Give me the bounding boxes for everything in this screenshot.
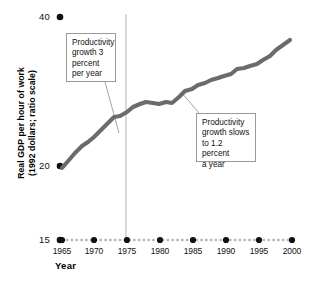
x-tick-label-1975: 1975 xyxy=(112,246,142,256)
x-tick-label-1985: 1985 xyxy=(178,246,208,256)
x-axis-title: Year xyxy=(55,260,76,271)
annotation-box-productivity-growth-3-percent: Productivity growth 3 percent per year xyxy=(66,33,116,82)
annotation-1-line-2: growth 3 xyxy=(72,48,111,58)
y-axis-tick-dots xyxy=(57,14,64,244)
y-axis-title: Real GDP per hour of work (1992 dollars;… xyxy=(16,48,38,198)
annotation-box-productivity-growth-slows: Productivity growth slows to 1.2 percent… xyxy=(196,113,256,162)
annotation-2-line-1: Productivity xyxy=(202,118,251,128)
x-tick-label-1965: 1965 xyxy=(47,246,77,256)
x-tick-label-1980: 1980 xyxy=(145,246,175,256)
annotation-1-line-1: Productivity xyxy=(72,38,111,48)
y-axis-title-line-2: (1992 dollars; ratio scale) xyxy=(27,48,38,198)
productivity-chart: 40 20 15 1965 1970 1975 1980 1985 1990 1… xyxy=(0,0,323,284)
x-tick-label-2000: 2000 xyxy=(277,246,307,256)
annotation-1-line-4: per year xyxy=(72,69,111,79)
x-tick-label-1995: 1995 xyxy=(244,246,274,256)
annotation-2-line-3: to 1.2 percent xyxy=(202,139,251,160)
annotation-2-line-2: growth slows xyxy=(202,128,251,138)
y-tick-label-15: 15 xyxy=(28,234,50,245)
x-tick-label-1970: 1970 xyxy=(79,246,109,256)
y-tick-label-40: 40 xyxy=(28,11,50,22)
annotation-2-line-4: a year xyxy=(202,160,251,170)
x-tick-label-1990: 1990 xyxy=(211,246,241,256)
y-axis-title-line-1: Real GDP per hour of work xyxy=(16,48,27,198)
annotation-1-line-3: percent xyxy=(72,59,111,69)
